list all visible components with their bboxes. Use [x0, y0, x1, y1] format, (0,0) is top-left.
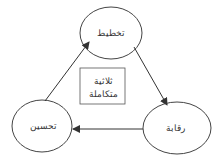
- center-box: ثلاثية متكاملة: [80, 68, 125, 104]
- node-control: رقابة: [143, 102, 211, 154]
- node-improvement: تحسين: [12, 100, 72, 152]
- node-planning: تخطيط: [80, 7, 142, 59]
- cycle-diagram: تخطيط رقابة تحسين ثلاثية متكاملة: [0, 0, 214, 161]
- planning-label: تخطيط: [97, 28, 125, 38]
- center-label-line1: ثلاثية: [94, 76, 113, 86]
- arrow-planning-to-control: [134, 47, 167, 105]
- center-label-line2: متكاملة: [89, 89, 118, 99]
- improvement-label: تحسين: [30, 121, 57, 132]
- control-label: رقابة: [166, 123, 185, 134]
- arrow-improvement-to-planning: [45, 42, 89, 101]
